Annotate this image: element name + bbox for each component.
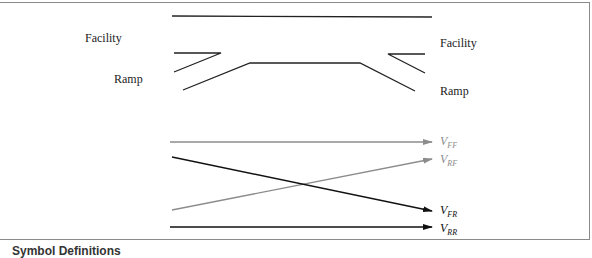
caption: Symbol Definitions — [12, 244, 121, 258]
roadway-geometry — [172, 16, 432, 91]
flow-fr-label: VFR — [440, 203, 457, 219]
flow-ff-label: VFF — [440, 134, 457, 150]
flow-rr-label: VRR — [440, 221, 457, 237]
flow-rf-label: VRF — [440, 152, 457, 168]
